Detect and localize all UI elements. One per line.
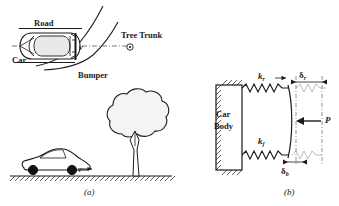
- label-velocity-top: v: [79, 44, 83, 52]
- label-deflection-bumper: δb: [281, 167, 289, 177]
- spring-front-deflected-ghost: [292, 151, 322, 159]
- delta-rear-arrow-right: [322, 80, 327, 85]
- label-car-body-line2: Body: [214, 122, 233, 131]
- car-rear-wheel: [28, 165, 37, 174]
- label-deflection-bumper-subscript: b: [286, 171, 289, 177]
- car-top-view-cabin: [34, 36, 70, 56]
- label-bumper: Bumper: [78, 71, 108, 80]
- spring-front-lower: [242, 151, 288, 159]
- delta-bumper-arrow-right: [302, 160, 307, 165]
- spring-rear-deflected-ghost: [296, 84, 326, 92]
- delta-bumper-arrow-left: [283, 160, 288, 165]
- force-arrow-head: [296, 117, 304, 125]
- delta-rear-arrow-left: [291, 80, 296, 85]
- label-stiffness-rear: kr: [258, 72, 265, 82]
- label-stiffness-front-subscript: f: [263, 141, 265, 147]
- stiffness-rear-leader-head: [282, 76, 287, 80]
- label-stiffness-front: kf: [258, 137, 265, 147]
- label-force-p: P: [325, 116, 331, 125]
- panel-a-top-view: [12, 6, 133, 70]
- label-deflection-rear-subscript: r: [304, 75, 306, 81]
- bumper-member-deformed: [288, 85, 292, 158]
- caption-panel-a: (a): [84, 188, 95, 197]
- tree-canopy: [107, 89, 169, 137]
- spring-rear-upper: [242, 84, 288, 92]
- car-body-bottom-hatching: [222, 170, 242, 175]
- ground-hatching: [10, 176, 175, 181]
- label-tree-trunk: Tree Trunk: [121, 31, 162, 40]
- tree-trunk-section-center: [129, 46, 131, 48]
- panel-a-side-view: [10, 89, 175, 181]
- car-body-top-hatching: [222, 80, 242, 85]
- tree-trunk-side: [130, 131, 139, 176]
- label-road: Road: [34, 19, 53, 28]
- label-velocity-side: v: [78, 166, 82, 174]
- car-front-wheel: [67, 165, 76, 174]
- label-car: Car: [12, 56, 26, 65]
- label-car-body-line1: Car: [216, 110, 230, 119]
- label-stiffness-rear-subscript: r: [263, 76, 265, 82]
- caption-panel-b: (b): [284, 188, 295, 197]
- label-deflection-rear: δr: [299, 71, 306, 81]
